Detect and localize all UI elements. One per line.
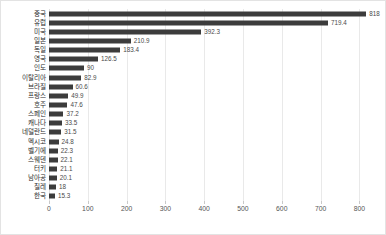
bar-value-label: 15.3 [58, 193, 70, 199]
bar-row[interactable]: 호주47.6 [49, 100, 371, 109]
x-tick-label: 800 [354, 206, 365, 213]
bar[interactable] [49, 194, 55, 199]
bar[interactable] [49, 75, 81, 80]
bar-value-label: 47.6 [70, 102, 82, 108]
x-tick-mark [359, 201, 360, 204]
bar-value-label: 183.4 [123, 47, 139, 53]
bar-chart: 중국818유럽719.4미국392.3일본210.9독일183.4영국126.5… [0, 0, 386, 235]
x-tick-label: 500 [237, 206, 248, 213]
category-label: 일본 [34, 38, 46, 45]
bar-row[interactable]: 영국126.5 [49, 55, 371, 64]
bar-value-label: 90 [87, 65, 94, 71]
category-label: 호주 [34, 102, 46, 109]
bar-value-label: 126.5 [101, 56, 117, 62]
x-tick-mark [204, 201, 205, 204]
bar-value-label: 21.1 [60, 166, 72, 172]
bar[interactable] [49, 11, 366, 16]
bar-value-label: 210.9 [134, 38, 150, 44]
bar-row[interactable]: 인도90 [49, 64, 371, 73]
bar-row[interactable]: 스페인37.2 [49, 110, 371, 119]
x-tick-label: 400 [199, 206, 210, 213]
category-label: 미국 [34, 29, 46, 36]
bar-row[interactable]: 네덜란드31.5 [49, 128, 371, 137]
bar[interactable] [49, 102, 67, 107]
bar-value-label: 22.1 [61, 157, 73, 163]
bar[interactable] [49, 121, 62, 126]
category-label: 스페인 [28, 111, 46, 118]
bar-row[interactable]: 브라질60.6 [49, 82, 371, 91]
bar-row[interactable]: 한국15.3 [49, 192, 371, 201]
bar[interactable] [49, 157, 58, 162]
category-label: 중국 [34, 10, 46, 17]
bar[interactable] [49, 148, 58, 153]
x-tick-label: 0 [47, 206, 51, 213]
category-label: 한국 [34, 193, 46, 200]
category-label: 스웨덴 [28, 157, 46, 164]
bar-row[interactable]: 프랑스49.9 [49, 91, 371, 100]
category-label: 캐나다 [28, 120, 46, 127]
category-label: 브라질 [28, 83, 46, 90]
bar-value-label: 24.8 [62, 138, 74, 144]
bar[interactable] [49, 57, 98, 62]
bar-value-label: 22.3 [61, 148, 73, 154]
category-label: 네덜란드 [22, 129, 46, 136]
x-tick-mark [321, 201, 322, 204]
bar[interactable] [49, 48, 120, 53]
bar-value-label: 82.9 [84, 74, 96, 80]
x-tick-label: 600 [276, 206, 287, 213]
bar[interactable] [49, 84, 73, 89]
x-axis: 0100200300400500600700800 [49, 201, 371, 225]
bar[interactable] [49, 93, 68, 98]
x-tick-mark [88, 201, 89, 204]
bar-value-label: 60.6 [76, 84, 88, 90]
bar-value-label: 719.4 [331, 20, 347, 26]
bar[interactable] [49, 176, 57, 181]
category-label: 멕시코 [28, 138, 46, 145]
category-label: 인도 [34, 65, 46, 72]
bar-value-label: 31.5 [64, 129, 76, 135]
category-label: 칠레 [34, 184, 46, 191]
bar[interactable] [49, 139, 59, 144]
x-tick-mark [127, 201, 128, 204]
bar-value-label: 18 [59, 184, 66, 190]
bar-row[interactable]: 캐나다33.5 [49, 119, 371, 128]
bar-row[interactable]: 벨기에22.3 [49, 146, 371, 155]
category-label: 터키 [34, 166, 46, 173]
x-tick-mark [243, 201, 244, 204]
category-label: 이탈리아 [22, 74, 46, 81]
category-label: 프랑스 [28, 93, 46, 100]
bar-value-label: 33.5 [65, 120, 77, 126]
x-tick-label: 300 [160, 206, 171, 213]
category-label: 영국 [34, 56, 46, 63]
x-tick-label: 100 [82, 206, 93, 213]
bar[interactable] [49, 166, 57, 171]
bar-value-label: 49.9 [71, 93, 83, 99]
bar-value-label: 37.2 [66, 111, 78, 117]
bar-row[interactable]: 칠레18 [49, 183, 371, 192]
bar-row[interactable]: 독일183.4 [49, 46, 371, 55]
bar-row[interactable]: 이탈리아82.9 [49, 73, 371, 82]
bar[interactable] [49, 185, 56, 190]
bar-row[interactable]: 유럽719.4 [49, 18, 371, 27]
bar[interactable] [49, 20, 328, 25]
bar-value-label: 20.1 [60, 175, 72, 181]
plot-area: 중국818유럽719.4미국392.3일본210.9독일183.4영국126.5… [49, 9, 371, 201]
bar-value-label: 818 [369, 10, 380, 16]
bar[interactable] [49, 38, 131, 43]
x-tick-mark [165, 201, 166, 204]
bar-row[interactable]: 중국818 [49, 9, 371, 18]
bar-row[interactable]: 터키21.1 [49, 164, 371, 173]
category-label: 벨기에 [28, 147, 46, 154]
x-tick-label: 200 [121, 206, 132, 213]
bar[interactable] [49, 29, 201, 34]
bar[interactable] [49, 66, 84, 71]
bar[interactable] [49, 112, 63, 117]
bar-row[interactable]: 스웨덴22.1 [49, 155, 371, 164]
bar[interactable] [49, 130, 61, 135]
x-tick-mark [49, 201, 50, 204]
bar-row[interactable]: 미국392.3 [49, 27, 371, 36]
bar-row[interactable]: 멕시코24.8 [49, 137, 371, 146]
bar-value-label: 392.3 [204, 29, 220, 35]
bar-row[interactable]: 일본210.9 [49, 36, 371, 45]
bar-row[interactable]: 남아공20.1 [49, 174, 371, 183]
